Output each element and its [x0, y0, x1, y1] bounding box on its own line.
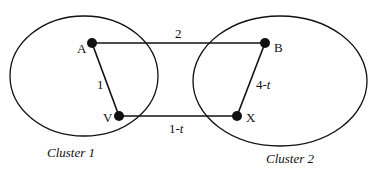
- node-V-label: V: [103, 110, 113, 125]
- cluster-1-ellipse: [10, 16, 158, 136]
- node-B-label: B: [274, 40, 283, 55]
- edge-B-X-weight: 4-t: [256, 77, 271, 92]
- edge-B-X-weight-var: t: [267, 77, 271, 92]
- cluster-2-label: Cluster 2: [266, 151, 315, 166]
- edge-B-X-weight-num: 4-: [256, 77, 267, 92]
- node-X-label: X: [246, 110, 256, 125]
- edge-V-X-weight: 1-t: [169, 121, 184, 136]
- node-X: [232, 111, 242, 121]
- edge-A-V-weight: 1: [97, 77, 104, 92]
- node-B: [260, 38, 270, 48]
- cluster-graph-diagram: A V B X 2 1 4-t 1-t Cluster 1 Cluster 2: [0, 0, 373, 171]
- node-A: [87, 38, 97, 48]
- cluster-2-ellipse: [193, 16, 367, 146]
- edge-V-X-weight-var: t: [180, 121, 184, 136]
- edge-V-X-weight-num: 1-: [169, 121, 180, 136]
- node-V: [114, 111, 124, 121]
- cluster-1-label: Cluster 1: [47, 145, 95, 160]
- edge-A-B-weight: 2: [175, 26, 182, 41]
- node-A-label: A: [77, 41, 87, 56]
